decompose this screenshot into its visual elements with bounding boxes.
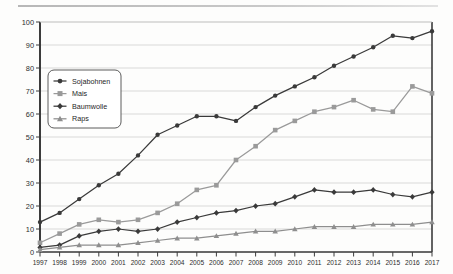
x-tick-label: 2003 xyxy=(150,259,165,266)
y-tick-label: 20 xyxy=(26,202,34,211)
data-point-marker xyxy=(253,203,258,209)
data-point-marker xyxy=(391,34,395,38)
data-point-marker xyxy=(214,183,219,188)
x-tick-label: 1999 xyxy=(72,259,87,266)
y-tick-label: 100 xyxy=(22,18,34,27)
x-tick-label: 2015 xyxy=(385,259,400,266)
x-tick-label: 1997 xyxy=(33,259,48,266)
data-point-marker xyxy=(155,226,160,232)
y-tick-label: 10 xyxy=(26,225,34,234)
data-point-marker xyxy=(332,64,336,68)
data-point-marker xyxy=(410,36,414,40)
data-point-marker xyxy=(77,222,82,227)
x-tick-label: 2010 xyxy=(287,259,302,266)
data-point-marker xyxy=(429,189,434,195)
data-point-marker xyxy=(155,133,159,137)
data-point-marker xyxy=(292,194,297,200)
data-point-marker xyxy=(253,144,258,149)
data-point-marker xyxy=(430,29,434,33)
data-point-marker xyxy=(234,158,239,163)
x-tick-label: 2013 xyxy=(346,259,361,266)
data-point-marker xyxy=(175,201,180,206)
legend-label-mais: Mais xyxy=(72,89,88,98)
x-tick-label: 2007 xyxy=(229,259,244,266)
chart-legend: SojabohnenMaisBaumwolleRaps xyxy=(48,70,121,128)
data-point-marker xyxy=(371,45,375,49)
x-tick-label: 2004 xyxy=(170,259,185,266)
x-axis-tick-labels: 1997199819992000200120022003200420052006… xyxy=(33,252,440,266)
x-tick-label: 2000 xyxy=(91,259,106,266)
y-tick-label: 30 xyxy=(26,179,34,188)
data-point-marker xyxy=(273,128,278,133)
data-point-marker xyxy=(77,197,81,201)
x-tick-label: 2017 xyxy=(425,259,440,266)
data-point-marker xyxy=(194,215,199,221)
data-point-marker xyxy=(273,93,277,97)
data-point-marker xyxy=(410,84,415,89)
data-point-marker xyxy=(351,98,356,103)
data-point-marker xyxy=(57,211,61,215)
data-point-marker xyxy=(175,123,179,127)
data-point-marker xyxy=(116,172,120,176)
y-axis-tick-labels: 0102030405060708090100 xyxy=(22,18,40,257)
legend-marker-sojabohnen xyxy=(58,79,63,84)
legend-label-sojabohnen: Sojabohnen xyxy=(72,77,110,86)
y-tick-label: 50 xyxy=(26,133,34,142)
x-tick-label: 2009 xyxy=(268,259,283,266)
data-point-marker xyxy=(116,220,121,225)
y-tick-label: 40 xyxy=(26,156,34,165)
y-tick-label: 80 xyxy=(26,64,34,73)
data-point-marker xyxy=(332,105,337,110)
data-point-marker xyxy=(410,194,415,200)
data-point-marker xyxy=(351,54,355,58)
data-point-marker xyxy=(38,241,43,246)
x-tick-label: 2016 xyxy=(405,259,420,266)
x-tick-label: 2011 xyxy=(307,259,322,266)
y-tick-label: 0 xyxy=(30,248,34,257)
data-point-marker xyxy=(234,119,238,123)
line-chart: 0102030405060708090100 19971998199920002… xyxy=(0,0,453,274)
chart-canvas: 0102030405060708090100 19971998199920002… xyxy=(0,0,453,274)
x-tick-label: 2001 xyxy=(111,259,126,266)
data-point-marker xyxy=(233,208,238,214)
data-point-marker xyxy=(293,119,298,124)
data-point-marker xyxy=(214,210,219,216)
legend-label-raps: Raps xyxy=(72,114,89,123)
data-point-marker xyxy=(77,233,82,239)
data-point-marker xyxy=(195,188,200,193)
x-tick-label: 2005 xyxy=(189,259,204,266)
y-tick-label: 70 xyxy=(26,87,34,96)
x-tick-label: 2012 xyxy=(327,259,342,266)
data-point-marker xyxy=(253,105,257,109)
data-point-marker xyxy=(312,187,317,193)
data-point-marker xyxy=(312,75,316,79)
data-point-marker xyxy=(195,114,199,118)
data-point-marker xyxy=(155,211,160,216)
series-raps xyxy=(37,219,435,252)
data-point-marker xyxy=(175,219,180,225)
data-point-marker xyxy=(57,231,62,236)
data-point-marker xyxy=(38,220,42,224)
data-point-marker xyxy=(430,91,435,96)
data-point-marker xyxy=(116,226,121,232)
data-point-marker xyxy=(97,218,102,223)
x-tick-label: 2006 xyxy=(209,259,224,266)
data-point-marker xyxy=(390,192,395,198)
data-point-marker xyxy=(136,218,141,223)
data-point-marker xyxy=(351,189,356,195)
legend-label-baumwolle: Baumwolle xyxy=(72,102,107,111)
x-tick-label: 2008 xyxy=(248,259,263,266)
data-point-marker xyxy=(371,107,376,112)
data-point-marker xyxy=(371,187,376,193)
legend-marker-mais xyxy=(58,91,63,96)
x-tick-label: 1998 xyxy=(52,259,67,266)
data-point-marker xyxy=(391,109,396,114)
chart-page: 0102030405060708090100 19971998199920002… xyxy=(0,0,453,274)
data-point-marker xyxy=(293,84,297,88)
data-point-marker xyxy=(312,109,317,114)
data-point-marker xyxy=(214,114,218,118)
data-point-marker xyxy=(136,153,140,157)
data-series-layer xyxy=(37,29,435,252)
data-point-marker xyxy=(97,183,101,187)
x-tick-label: 2002 xyxy=(131,259,146,266)
